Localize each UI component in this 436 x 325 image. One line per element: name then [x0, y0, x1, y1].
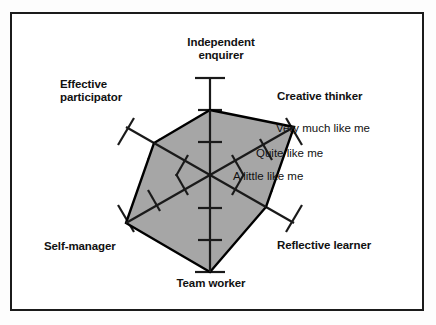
axis-label-independent-enquirer: Independent enquirer [166, 36, 276, 62]
scale-label-quite-like-me: Quite like me [256, 147, 323, 160]
radar-chart-figure: Independent enquirer Effective participa… [0, 0, 436, 325]
scale-label-very-much-like-me: Very much like me [276, 122, 370, 135]
scale-label-a-little-like-me: A little like me [233, 170, 303, 183]
tick-reflective-learner-r3 [286, 205, 302, 232]
axis-label-creative-thinker: Creative thinker [277, 90, 362, 103]
tick-effective-participator-r3 [118, 118, 134, 145]
axis-label-effective-participator: Effective participator [60, 78, 152, 104]
axis-label-self-manager: Self-manager [44, 240, 116, 253]
axis-label-team-worker: Team worker [163, 277, 259, 290]
axis-label-reflective-learner: Reflective learner [277, 239, 371, 252]
